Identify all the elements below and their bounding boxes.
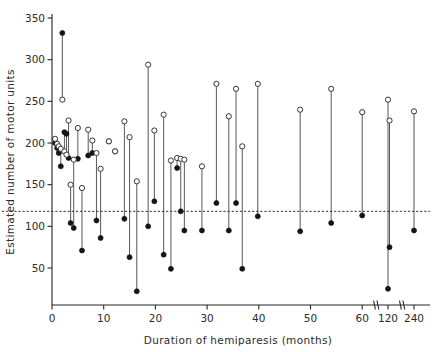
- data-point-open: [94, 150, 99, 155]
- data-point-filled: [98, 236, 103, 241]
- data-point-filled: [240, 266, 245, 271]
- data-point-filled: [71, 226, 76, 231]
- data-point-filled: [161, 252, 166, 257]
- x-tick-label: 60: [356, 312, 369, 324]
- x-tick-label: 240: [404, 312, 424, 324]
- data-point-open: [146, 62, 151, 67]
- y-tick-label: 300: [25, 53, 45, 65]
- data-point-open: [214, 81, 219, 86]
- data-point-open: [71, 157, 76, 162]
- data-point-open: [98, 166, 103, 171]
- data-point-filled: [199, 228, 204, 233]
- data-point-open: [127, 135, 132, 140]
- data-point-open: [199, 164, 204, 169]
- data-point-open: [298, 107, 303, 112]
- data-point-open: [122, 119, 127, 124]
- data-point-filled: [152, 199, 157, 204]
- data-point-open: [53, 136, 58, 141]
- data-point-open: [360, 110, 365, 115]
- data-point-open: [168, 158, 173, 163]
- scatter-range-plot: 50100150200250300350 0102030405060120240…: [0, 0, 440, 352]
- data-point-open: [233, 86, 238, 91]
- data-point-filled: [255, 214, 260, 219]
- data-point-open: [90, 138, 95, 143]
- data-point-filled: [146, 224, 151, 229]
- y-tick-label: 100: [25, 220, 45, 232]
- data-point-open: [152, 128, 157, 133]
- data-point-filled: [58, 164, 63, 169]
- data-point-open: [75, 125, 80, 130]
- data-point-open: [411, 109, 416, 114]
- data-point-open: [385, 97, 390, 102]
- x-tick-label: 120: [378, 312, 398, 324]
- data-point-open: [68, 182, 73, 187]
- x-tick-label: 30: [200, 312, 213, 324]
- figure-panel: 50100150200250300350 0102030405060120240…: [0, 0, 440, 352]
- data-point-filled: [298, 229, 303, 234]
- x-tick-label: 10: [97, 312, 110, 324]
- data-point-filled: [182, 228, 187, 233]
- data-point-open: [86, 127, 91, 132]
- y-tick-label: 50: [32, 262, 45, 274]
- data-point-open: [64, 152, 69, 157]
- data-point-filled: [386, 286, 391, 291]
- data-point-open: [387, 118, 392, 123]
- data-point-filled: [134, 289, 139, 294]
- y-axis-title: Estimated number of motor units: [4, 69, 16, 255]
- data-point-open: [112, 149, 117, 154]
- data-point-open: [255, 81, 260, 86]
- data-point-open: [161, 112, 166, 117]
- plot-background: [0, 0, 440, 352]
- data-point-filled: [175, 166, 180, 171]
- x-tick-label: 20: [149, 312, 162, 324]
- data-point-filled: [214, 201, 219, 206]
- data-point-open: [66, 118, 71, 123]
- data-point-open: [134, 179, 139, 184]
- x-tick-label: 50: [304, 312, 317, 324]
- data-point-filled: [94, 218, 99, 223]
- data-point-open: [329, 86, 334, 91]
- data-point-filled: [234, 201, 239, 206]
- y-tick-label: 250: [25, 95, 45, 107]
- data-point-filled: [127, 255, 132, 260]
- data-point-filled: [226, 228, 231, 233]
- data-point-open: [240, 144, 245, 149]
- data-point-filled: [64, 131, 69, 136]
- data-point-open: [60, 97, 65, 102]
- x-tick-label: 0: [49, 312, 56, 324]
- x-tick-label: 40: [252, 312, 265, 324]
- x-axis-title: Duration of hemiparesis (months): [144, 334, 332, 346]
- y-tick-label: 150: [25, 178, 45, 190]
- y-tick-label: 350: [25, 12, 45, 24]
- y-tick-label: 200: [25, 137, 45, 149]
- data-point-filled: [168, 266, 173, 271]
- data-point-filled: [412, 228, 417, 233]
- data-point-filled: [360, 213, 365, 218]
- data-point-filled: [60, 31, 65, 36]
- data-point-filled: [68, 221, 73, 226]
- data-point-filled: [387, 245, 392, 250]
- data-point-open: [226, 114, 231, 119]
- data-point-open: [79, 185, 84, 190]
- data-point-filled: [329, 221, 334, 226]
- data-point-open: [182, 157, 187, 162]
- data-point-open: [106, 139, 111, 144]
- data-point-filled: [122, 216, 127, 221]
- data-point-filled: [79, 248, 84, 253]
